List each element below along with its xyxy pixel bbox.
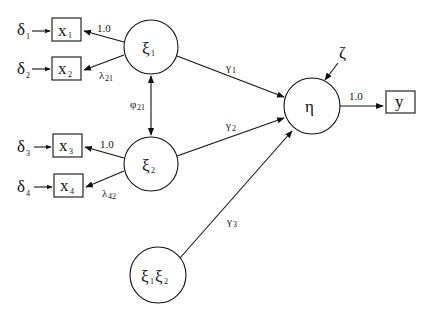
loading-y: 1.0 [349, 90, 363, 102]
svg-text:γ: γ [226, 215, 232, 227]
svg-text:3: 3 [233, 220, 237, 229]
svg-text:δ: δ [17, 177, 25, 196]
svg-text:x: x [60, 176, 69, 195]
svg-text:21: 21 [137, 103, 145, 112]
svg-text:δ: δ [17, 20, 25, 39]
gamma2-label: γ 2 [225, 119, 236, 133]
svg-text:1: 1 [26, 32, 30, 41]
latent-eta: η [284, 78, 340, 134]
svg-text:y: y [395, 92, 404, 111]
svg-text:2: 2 [151, 166, 155, 175]
svg-text:2: 2 [68, 70, 72, 79]
gamma3-label: γ 3 [226, 215, 237, 229]
path-xi2-x4 [86, 171, 124, 187]
loading-x2: λ 21 [99, 69, 113, 83]
svg-text:1: 1 [150, 277, 154, 286]
arrow-zeta-eta [325, 63, 338, 80]
latent-interaction: ξ 1 ξ 2 [130, 247, 186, 303]
latent-xi2: ξ 2 [124, 137, 178, 191]
error-delta-1: δ 1 [17, 20, 50, 41]
observed-x2: x 2 [52, 57, 81, 80]
svg-text:1: 1 [151, 49, 155, 58]
error-delta-4: δ 4 [17, 177, 52, 198]
observed-x3: x 3 [53, 134, 82, 157]
path-gamma3 [180, 131, 292, 258]
disturbance-zeta: ζ [339, 43, 346, 62]
error-delta-3: δ 3 [17, 137, 51, 158]
loading-x3: 1.0 [100, 138, 114, 150]
gamma1-label: γ 1 [225, 61, 236, 75]
svg-text:δ: δ [17, 137, 25, 156]
loading-x4: λ 42 [102, 187, 116, 201]
svg-text:γ: γ [225, 61, 231, 73]
svg-text:η: η [305, 97, 314, 116]
svg-text:ξ: ξ [141, 267, 149, 286]
svg-text:2: 2 [26, 71, 30, 80]
observed-y: y [386, 91, 415, 113]
svg-text:3: 3 [26, 149, 30, 158]
svg-text:21: 21 [105, 74, 113, 83]
error-delta-2: δ 2 [17, 59, 50, 80]
svg-text:x: x [58, 59, 67, 78]
observed-x1: x 1 [52, 18, 81, 41]
svg-text:42: 42 [108, 192, 116, 201]
sem-diagram: δ 1 δ 2 δ 3 δ 4 x 1 x 2 x 3 x 4 y [0, 0, 431, 316]
svg-text:4: 4 [70, 187, 74, 196]
loading-x1: 1.0 [97, 22, 111, 34]
svg-text:γ: γ [225, 119, 231, 131]
svg-text:δ: δ [17, 59, 25, 78]
svg-text:ξ: ξ [155, 267, 163, 286]
svg-text:3: 3 [69, 147, 73, 156]
svg-text:1: 1 [68, 31, 72, 40]
path-xi1-x2 [84, 55, 124, 70]
svg-text:2: 2 [164, 277, 168, 286]
svg-text:2: 2 [232, 124, 236, 133]
svg-text:ξ: ξ [142, 39, 150, 58]
svg-text:φ: φ [130, 98, 136, 110]
svg-text:1: 1 [232, 66, 236, 75]
svg-text:4: 4 [26, 189, 30, 198]
covariance-label: φ 21 [130, 98, 145, 112]
observed-x4: x 4 [54, 174, 83, 197]
svg-text:ξ: ξ [142, 156, 150, 175]
svg-text:x: x [59, 136, 68, 155]
latent-xi1: ξ 1 [124, 20, 178, 74]
svg-text:x: x [58, 21, 67, 40]
